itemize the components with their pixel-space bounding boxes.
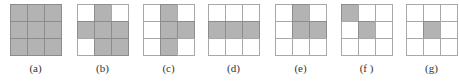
empty-cell bbox=[77, 38, 95, 56]
filled-cell bbox=[27, 21, 45, 39]
filled-cell bbox=[77, 21, 95, 39]
empty-cell bbox=[375, 4, 393, 22]
filled-cell bbox=[27, 4, 45, 22]
empty-cell bbox=[358, 4, 376, 22]
filled-cell bbox=[177, 21, 195, 39]
filled-cell bbox=[160, 38, 178, 56]
empty-cell bbox=[77, 4, 95, 22]
filled-cell bbox=[44, 38, 62, 56]
panel-c: (c) bbox=[143, 4, 195, 55]
panel-f: (f ) bbox=[341, 4, 393, 55]
panel-label: (a) bbox=[10, 61, 61, 75]
empty-cell bbox=[275, 4, 293, 22]
empty-cell bbox=[406, 4, 424, 22]
filled-cell bbox=[10, 38, 28, 56]
empty-cell bbox=[440, 38, 458, 56]
panel-a: (a) bbox=[10, 4, 62, 55]
empty-cell bbox=[309, 4, 327, 22]
panel-label: (f ) bbox=[341, 61, 392, 75]
empty-cell bbox=[423, 38, 441, 56]
filled-cell bbox=[10, 21, 28, 39]
empty-cell bbox=[275, 38, 293, 56]
empty-cell bbox=[242, 38, 260, 56]
empty-cell bbox=[143, 21, 161, 39]
empty-cell bbox=[225, 38, 243, 56]
filled-cell bbox=[341, 4, 359, 22]
empty-cell bbox=[341, 21, 359, 39]
filled-cell bbox=[309, 21, 327, 39]
empty-cell bbox=[242, 4, 260, 22]
empty-cell bbox=[143, 4, 161, 22]
filled-cell bbox=[358, 21, 376, 39]
filled-cell bbox=[94, 38, 112, 56]
empty-cell bbox=[177, 4, 195, 22]
empty-cell bbox=[406, 21, 424, 39]
empty-cell bbox=[143, 38, 161, 56]
empty-cell bbox=[440, 21, 458, 39]
panel-e: (e) bbox=[275, 4, 327, 55]
filled-cell bbox=[292, 4, 310, 22]
grid-3x3 bbox=[77, 4, 128, 55]
filled-cell bbox=[292, 21, 310, 39]
empty-cell bbox=[225, 4, 243, 22]
panel-b: (b) bbox=[77, 4, 129, 55]
filled-cell bbox=[160, 21, 178, 39]
filled-cell bbox=[44, 4, 62, 22]
grid-3x3 bbox=[341, 4, 392, 55]
grid-3x3 bbox=[143, 4, 194, 55]
empty-cell bbox=[208, 38, 226, 56]
empty-cell bbox=[208, 4, 226, 22]
panel-label: (c) bbox=[143, 61, 194, 75]
panel-label: (b) bbox=[77, 61, 128, 75]
empty-cell bbox=[423, 4, 441, 22]
filled-cell bbox=[94, 21, 112, 39]
grid-3x3 bbox=[10, 4, 61, 55]
filled-cell bbox=[27, 38, 45, 56]
filled-cell bbox=[225, 21, 243, 39]
empty-cell bbox=[358, 38, 376, 56]
empty-cell bbox=[292, 38, 310, 56]
filled-cell bbox=[10, 4, 28, 22]
panel-label: (e) bbox=[275, 61, 326, 75]
panel-label: (d) bbox=[208, 61, 259, 75]
filled-cell bbox=[423, 21, 441, 39]
filled-cell bbox=[208, 21, 226, 39]
filled-cell bbox=[44, 21, 62, 39]
empty-cell bbox=[275, 21, 293, 39]
filled-cell bbox=[111, 21, 129, 39]
empty-cell bbox=[111, 4, 129, 22]
filled-cell bbox=[242, 21, 260, 39]
grid-3x3 bbox=[208, 4, 259, 55]
filled-cell bbox=[160, 4, 178, 22]
grid-3x3 bbox=[275, 4, 326, 55]
empty-cell bbox=[177, 38, 195, 56]
empty-cell bbox=[406, 38, 424, 56]
panel-g: (g) bbox=[406, 4, 458, 55]
empty-cell bbox=[375, 38, 393, 56]
empty-cell bbox=[309, 38, 327, 56]
empty-cell bbox=[341, 38, 359, 56]
empty-cell bbox=[375, 21, 393, 39]
panel-d: (d) bbox=[208, 4, 260, 55]
filled-cell bbox=[94, 4, 112, 22]
filled-cell bbox=[111, 38, 129, 56]
empty-cell bbox=[440, 4, 458, 22]
grid-3x3 bbox=[406, 4, 457, 55]
panel-label: (g) bbox=[406, 61, 457, 75]
